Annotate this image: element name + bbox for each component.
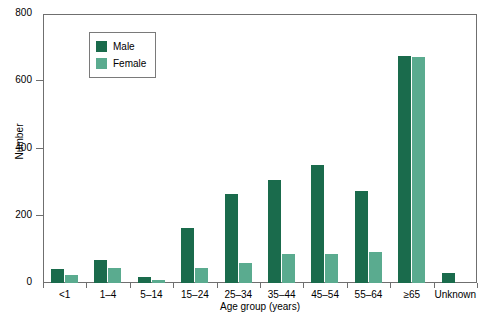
x-tick-mark [173, 283, 174, 288]
x-tick-label: 45–54 [303, 289, 346, 301]
legend-label-male: Male [113, 41, 135, 53]
legend-swatch-male-icon [96, 41, 107, 52]
bar-male [94, 260, 107, 283]
y-tick-label: 0 [0, 276, 32, 288]
bar-male [51, 269, 64, 283]
x-tick-label: 55–64 [347, 289, 390, 301]
x-tick-label: 1–4 [86, 289, 129, 301]
bar-female [65, 275, 78, 283]
bar-female [325, 254, 338, 283]
x-tick-mark [86, 283, 87, 288]
bar-group [173, 14, 216, 283]
bar-group [347, 14, 390, 283]
x-tick-mark [434, 283, 435, 288]
bar-male [181, 228, 194, 283]
bar-group [260, 14, 303, 283]
bar-group [434, 14, 477, 283]
x-tick-label: <1 [43, 289, 86, 301]
bar-male [225, 194, 238, 283]
bar-group [390, 14, 433, 283]
x-tick-mark [217, 283, 218, 288]
legend-swatch-female-icon [96, 58, 107, 69]
y-tick-label: 400 [0, 142, 32, 154]
legend: Male Female [89, 32, 156, 78]
y-tick-label: 600 [0, 74, 32, 86]
y-tick-mark [36, 80, 43, 81]
y-tick-label: 200 [0, 209, 32, 221]
bar-male [311, 165, 324, 283]
y-tick-label: 800 [0, 7, 32, 19]
x-tick-label: 5–14 [130, 289, 173, 301]
bar-female [195, 268, 208, 283]
bar-female [412, 57, 425, 283]
x-tick-label: Unknown [434, 289, 477, 301]
bar-female [282, 254, 295, 283]
x-tick-mark [43, 283, 44, 288]
x-tick-mark [390, 283, 391, 288]
bar-group [217, 14, 260, 283]
x-tick-mark [260, 283, 261, 288]
x-tick-mark [303, 283, 304, 288]
x-tick-label: 25–34 [217, 289, 260, 301]
y-tick-mark [36, 215, 43, 216]
bar-group [43, 14, 86, 283]
bar-male [442, 273, 455, 283]
bar-female [239, 263, 252, 283]
bar-male [398, 56, 411, 283]
bar-male [355, 191, 368, 283]
x-tick-mark [347, 283, 348, 288]
x-axis-title: Age group (years) [43, 301, 477, 313]
legend-item-male: Male [96, 38, 146, 55]
x-tick-label: 15–24 [173, 289, 216, 301]
x-tick-mark [130, 283, 131, 288]
y-tick-mark [36, 148, 43, 149]
bar-chart: Number 0200400600800 <11–45–1415–2425–34… [0, 0, 486, 318]
legend-item-female: Female [96, 55, 146, 72]
bar-male [268, 180, 281, 283]
x-tick-mark [477, 283, 478, 288]
bar-group [303, 14, 346, 283]
x-tick-label: 35–44 [260, 289, 303, 301]
bar-female [108, 268, 121, 283]
legend-label-female: Female [113, 58, 146, 70]
x-tick-label: ≥65 [390, 289, 433, 301]
bar-female [369, 252, 382, 283]
